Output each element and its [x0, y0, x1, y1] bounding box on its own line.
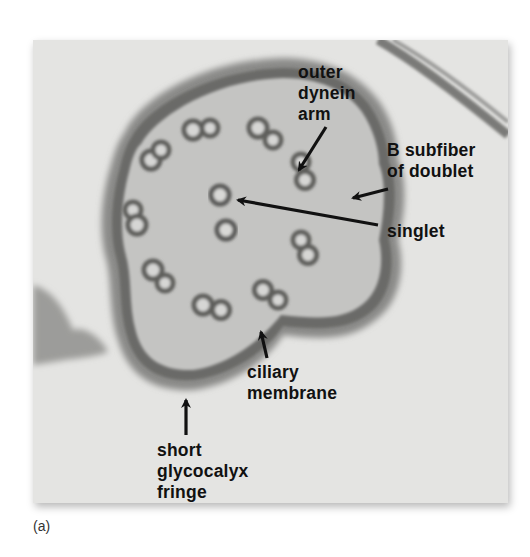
label-glycocalyx: short glycocalyx fringe — [157, 440, 249, 503]
label-singlet: singlet — [387, 221, 445, 242]
micrograph-image — [33, 40, 508, 503]
label-outer-dynein-arm: outer dynein arm — [298, 62, 356, 125]
panel-label: (a) — [33, 518, 50, 534]
label-b-subfiber: B subfiber of doublet — [387, 140, 476, 182]
micrograph-figure: outer dynein arm B subfiber of doublet s… — [33, 40, 508, 503]
label-ciliary-membrane: ciliary membrane — [247, 362, 337, 404]
